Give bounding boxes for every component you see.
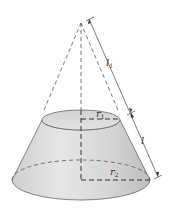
left-extension-line [44,23,81,110]
label-l1: l1 [106,57,113,69]
frustum-diagram: l1 r1 l r2 [0,0,176,216]
tick-top [86,17,94,21]
arrowhead-mid-down [131,113,134,118]
label-r1: r1 [96,108,105,120]
label-l: l [141,135,144,146]
